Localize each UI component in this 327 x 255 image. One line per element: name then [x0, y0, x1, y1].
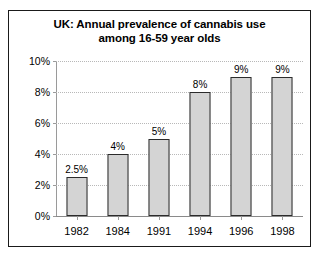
chart-title-line-1: UK: Annual prevalence of cannabis use [9, 17, 310, 31]
x-axis-tick-mark [200, 216, 201, 220]
y-axis-tick-label: 4% [35, 148, 50, 160]
bar [190, 92, 211, 216]
x-axis-tick-label: 1994 [188, 225, 212, 237]
y-axis-tick-label: 8% [35, 86, 50, 98]
x-axis-tick-mark [159, 216, 160, 220]
bar-value-label: 2.5% [65, 164, 88, 175]
bar-group: 5%1991 [138, 61, 179, 216]
x-axis-tick-mark [241, 216, 242, 220]
x-axis-tick-mark [118, 216, 119, 220]
bar-group: 9%1996 [221, 61, 262, 216]
x-axis-tick-label: 1998 [270, 225, 294, 237]
x-axis-tick-label: 1984 [105, 225, 129, 237]
chart-title: UK: Annual prevalence of cannabis use am… [9, 17, 310, 45]
x-axis-tick-mark [77, 216, 78, 220]
bar [272, 77, 293, 217]
y-axis-tick-label: 10% [29, 55, 50, 67]
y-axis-tick-label: 2% [35, 179, 50, 191]
bar-group: 8%1994 [180, 61, 221, 216]
bar [231, 77, 252, 217]
x-axis-tick-label: 1991 [147, 225, 171, 237]
bar-group: 2.5%1982 [56, 61, 97, 216]
bar-group: 4%1984 [97, 61, 138, 216]
y-axis-tick-mark [53, 216, 56, 217]
bar-value-label: 9% [234, 64, 248, 75]
plot-area: 0%2%4%6%8%10% 2.5%19824%19845%19918%1994… [56, 61, 303, 216]
bar [107, 154, 128, 216]
gridline [56, 216, 303, 217]
chart-title-line-2: among 16-59 year olds [9, 31, 310, 45]
x-axis-tick-mark [282, 216, 283, 220]
bar-value-label: 8% [193, 79, 207, 90]
bar [148, 139, 169, 217]
bar [66, 177, 87, 216]
y-axis-tick-label: 0% [35, 210, 50, 222]
x-axis-tick-label: 1996 [229, 225, 253, 237]
bar-group: 9%1998 [262, 61, 303, 216]
x-axis-tick-label: 1982 [64, 225, 88, 237]
y-axis-tick-label: 6% [35, 117, 50, 129]
chart-frame: UK: Annual prevalence of cannabis use am… [8, 10, 311, 247]
bar-value-label: 5% [152, 126, 166, 137]
bar-value-label: 9% [275, 64, 289, 75]
bar-value-label: 4% [111, 141, 125, 152]
